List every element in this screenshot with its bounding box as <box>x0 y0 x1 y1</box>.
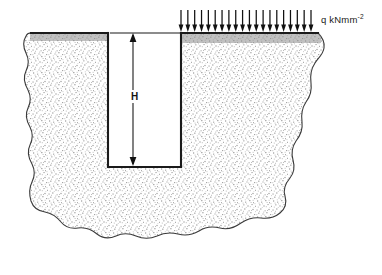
load-arrow-head <box>226 25 231 33</box>
load-arrow-head <box>220 25 225 33</box>
load-arrow-head <box>247 25 252 33</box>
load-arrow-head <box>179 25 184 33</box>
figure-root: q kNmm-2 H <box>0 0 382 275</box>
load-arrow-head <box>185 25 190 33</box>
load-arrow-head <box>309 25 314 33</box>
load-arrow-head <box>206 25 211 33</box>
soil-mass <box>24 33 324 238</box>
depth-dimension-line <box>110 33 181 166</box>
load-arrow-head <box>288 25 293 33</box>
distributed-load-label-text: q kNmm <box>321 14 358 25</box>
load-arrow-head <box>240 25 245 33</box>
load-arrow-head <box>302 25 307 33</box>
load-arrow-head <box>295 25 300 33</box>
load-arrow-head <box>233 25 238 33</box>
cross-section-diagram <box>0 0 382 275</box>
distributed-load-exponent: -2 <box>358 13 364 20</box>
distributed-load-arrows <box>179 10 314 32</box>
soil-mass-outline <box>24 33 324 238</box>
load-arrow-head <box>274 25 279 33</box>
trench-depth-label: H <box>129 90 140 103</box>
distributed-load-label: q kNmm-2 <box>321 14 364 25</box>
load-arrow-head <box>254 25 259 33</box>
load-arrow-head <box>261 25 266 33</box>
load-arrow-head <box>199 25 204 33</box>
load-arrow-head <box>192 25 197 33</box>
dimension-arrowhead-bottom <box>130 157 137 166</box>
dimension-arrowhead-top <box>130 33 137 42</box>
load-arrow-head <box>268 25 273 33</box>
load-arrow-head <box>281 25 286 33</box>
load-arrow-head <box>213 25 218 33</box>
